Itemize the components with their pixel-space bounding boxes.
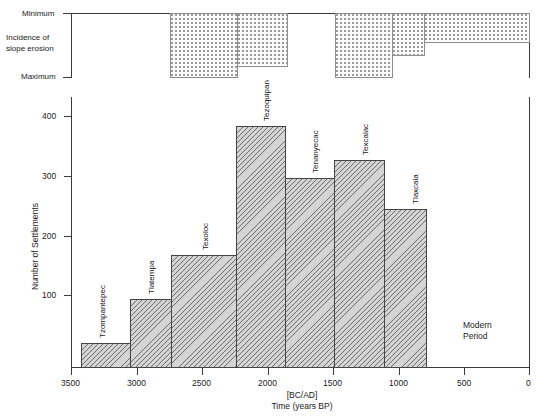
y-tick-label-300: 300 <box>42 171 56 181</box>
bar-tenanyecac <box>285 178 335 368</box>
y-axis-line <box>71 97 72 368</box>
x-tick-1500 <box>333 367 334 375</box>
x-tick-0 <box>529 367 530 375</box>
x-tick-3000 <box>137 367 138 375</box>
bar-label-texoloc: Texoloc <box>201 223 210 250</box>
x-tick-2500 <box>202 367 203 375</box>
bar-label-tezoquipan: Tezoquipan <box>262 80 271 121</box>
modern-period-line1: Modern <box>463 320 492 331</box>
x-tick-2000 <box>268 367 269 375</box>
y-tick-label-200: 200 <box>42 231 56 241</box>
x-axis-title-line1: [BC/AD] <box>232 390 372 401</box>
y-tick-400 <box>64 116 72 117</box>
x-tick-1000 <box>399 367 400 375</box>
x-tick-label-3000: 3000 <box>127 378 146 388</box>
y-tick-300 <box>64 176 72 177</box>
bar-label-texcalac: Texcalac <box>361 124 370 155</box>
y-tick-200 <box>64 236 72 237</box>
main-bar-chart: 100 200 300 400 Number of Settlements 35… <box>0 0 545 419</box>
bar-label-tenanyecac: Tenanyecac <box>311 130 320 173</box>
x-tick-label-1000: 1000 <box>389 378 408 388</box>
x-tick-3500 <box>71 367 72 375</box>
x-tick-label-500: 500 <box>457 378 471 388</box>
bar-texoloc <box>171 255 237 368</box>
bar-label-tzompantepec: Tzompantepec <box>98 285 107 338</box>
modern-period-line2: Period <box>463 331 492 342</box>
x-axis-title: [BC/AD] Time (years BP) <box>232 390 372 412</box>
modern-period-annotation: Modern Period <box>463 320 492 341</box>
y-tick-label-100: 100 <box>42 290 56 300</box>
y-tick-100 <box>64 295 72 296</box>
y-tick-label-400: 400 <box>42 111 56 121</box>
figure-settlements-erosion: Minimum Maximum Incidence of slope erosi… <box>0 0 545 419</box>
bar-label-tlatempa: Tlatempa <box>147 261 156 294</box>
y-axis-title: Number of Settlements <box>30 203 40 290</box>
x-tick-500 <box>464 367 465 375</box>
bar-tezoquipan <box>236 126 286 368</box>
bar-tlatempa <box>130 299 172 368</box>
x-tick-label-1500: 1500 <box>323 378 342 388</box>
bar-tlaxcala <box>384 209 427 368</box>
x-tick-label-2500: 2500 <box>192 378 211 388</box>
x-tick-label-0: 0 <box>526 378 531 388</box>
x-tick-label-2000: 2000 <box>258 378 277 388</box>
plot-right-spine <box>529 97 530 368</box>
x-axis-title-line2: Time (years BP) <box>232 401 372 412</box>
bar-tzompantepec <box>81 343 131 368</box>
x-tick-label-3500: 3500 <box>61 378 80 388</box>
bar-texcalac <box>334 160 385 368</box>
bar-label-tlaxcala: Tlaxcala <box>411 174 420 204</box>
